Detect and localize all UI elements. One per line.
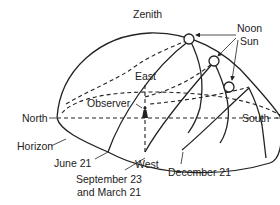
- zenith-label: Zenith: [133, 8, 162, 20]
- south-label: South: [242, 112, 270, 124]
- june-leader: [95, 152, 108, 159]
- noon-sun-june: [184, 34, 194, 44]
- sun-label: Sun: [240, 35, 259, 47]
- observer-leader: [136, 104, 142, 108]
- noon-label: Noon: [237, 22, 262, 34]
- west-label: West: [135, 158, 159, 170]
- december-label: December 21: [168, 166, 231, 178]
- observer-label: Observer: [87, 97, 131, 109]
- noon-sun-arrow-3: [232, 40, 238, 80]
- noon-sun-arrow-2: [218, 38, 236, 56]
- horizon-leader: [51, 139, 66, 146]
- equinox-label-line1: September 23: [76, 173, 142, 185]
- equinox-label-line2: and March 21: [77, 186, 141, 198]
- noon-sun-equinox: [209, 56, 219, 66]
- december-leader: [181, 152, 183, 164]
- sun-path-diagram: Zenith Noon Sun East Observer North Sout…: [0, 0, 280, 205]
- east-label: East: [135, 70, 156, 82]
- meridian-june: [66, 40, 188, 104]
- june-label: June 21: [54, 157, 92, 169]
- observer-icon: [142, 106, 148, 118]
- north-label: North: [22, 112, 48, 124]
- noon-sun-december: [224, 82, 234, 92]
- sun-path-equinox: [145, 62, 228, 152]
- horizon-label: Horizon: [17, 140, 53, 152]
